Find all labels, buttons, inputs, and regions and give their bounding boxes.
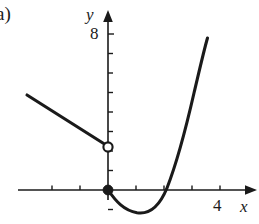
- figure-container: a): [0, 0, 259, 224]
- x-axis-arrowhead: [245, 185, 257, 195]
- x-axis-label: x: [240, 198, 248, 215]
- y-axis-arrowhead: [103, 10, 113, 22]
- y-axis-label: y: [86, 6, 94, 23]
- y-axis-ticks: [108, 34, 114, 210]
- axes-group: [18, 10, 257, 200]
- graph-canvas: [0, 0, 259, 224]
- x-tick-label-4: 4: [213, 197, 222, 214]
- filled-circle-marker: [103, 185, 113, 195]
- linear-branch-curve: [27, 95, 106, 145]
- open-circle-marker: [103, 142, 112, 151]
- y-tick-label-8: 8: [90, 25, 99, 42]
